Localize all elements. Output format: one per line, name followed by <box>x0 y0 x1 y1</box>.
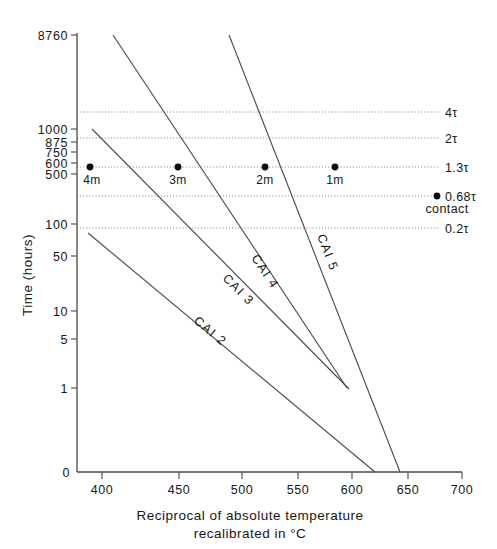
data-point-label-contact: contact <box>425 202 468 216</box>
x-tick-label-600: 600 <box>341 483 364 497</box>
x-tick-label-550: 550 <box>287 483 310 497</box>
data-point-label-2m: 2m <box>256 173 273 187</box>
tau-label-2tau: 2τ <box>445 132 458 146</box>
y-tick-label-1000: 1000 <box>38 123 68 137</box>
x-tick-label-450: 450 <box>168 483 191 497</box>
data-point-label-4m: 4m <box>83 173 100 187</box>
data-point-3m <box>175 164 182 171</box>
x-axis-title-line1: Reciprocal of absolute temperature <box>136 508 363 523</box>
tau-label-1.3tau: 1.3τ <box>445 161 469 175</box>
chart-canvas: CAI 2 CAI 3 CAI 4 CAI 5 8760 10 <box>0 0 497 549</box>
reference-gridlines <box>77 112 440 228</box>
x-tick-label-500: 500 <box>231 483 254 497</box>
curve-label-cai-2: CAI 2 <box>191 314 229 349</box>
y-tick-label-500: 500 <box>45 168 68 182</box>
data-point-label-1m: 1m <box>326 173 343 187</box>
y-tick-label-50: 50 <box>53 250 68 264</box>
y-tick-label-8760: 8760 <box>38 29 68 43</box>
data-curves <box>88 35 400 472</box>
y-tick-label-10: 10 <box>53 305 68 319</box>
x-tick-label-650: 650 <box>397 483 420 497</box>
data-point-2m <box>262 164 269 171</box>
curve-labels: CAI 2 CAI 3 CAI 4 CAI 5 <box>191 232 341 349</box>
data-point-contact <box>434 193 441 200</box>
curve-label-cai-5: CAI 5 <box>314 232 341 273</box>
curve-cai-5 <box>229 35 400 472</box>
x-tickmarks <box>102 472 462 479</box>
tau-label-4tau: 4τ <box>445 106 458 120</box>
x-tick-label-700: 700 <box>451 483 474 497</box>
curve-label-cai-4: CAI 4 <box>249 252 282 292</box>
x-tick-label-400: 400 <box>91 483 114 497</box>
tau-label-0.2tau: 0.2τ <box>445 222 469 236</box>
y-tick-labels: 8760 1000 875 750 600 500 100 50 10 5 1 … <box>38 29 70 480</box>
y-tick-label-5: 5 <box>60 333 68 347</box>
chart-figure: CAI 2 CAI 3 CAI 4 CAI 5 8760 10 <box>0 0 497 549</box>
y-tick-label-100: 100 <box>45 218 68 232</box>
data-point-4m <box>87 164 94 171</box>
tau-labels: 4τ 2τ 1.3τ 0.68τ 0.2τ <box>445 106 476 236</box>
data-point-label-3m: 3m <box>169 173 186 187</box>
y-tick-label-1: 1 <box>60 382 68 396</box>
y-tick-label-0: 0 <box>62 466 70 480</box>
data-point-1m <box>332 164 339 171</box>
y-tickmarks <box>71 35 77 388</box>
curve-cai-4 <box>113 35 347 388</box>
x-tick-labels: 400 450 500 550 600 650 700 <box>91 483 474 497</box>
curve-cai-3 <box>92 129 349 389</box>
x-axis-title-line2: recalibrated in °C <box>194 526 307 541</box>
y-axis-title: Time (hours) <box>20 234 35 316</box>
axes <box>77 33 462 472</box>
